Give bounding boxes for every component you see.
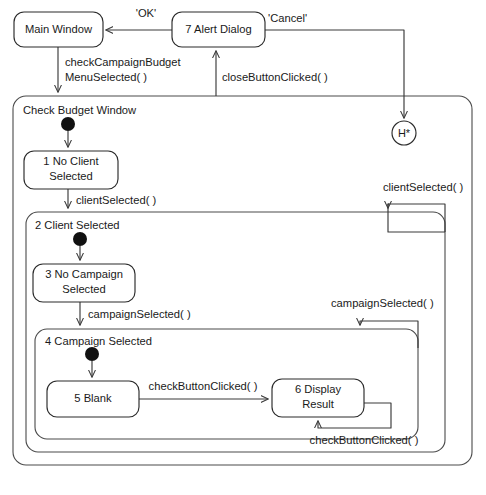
diagram-canvas: Check Budget Window 2 Client Selected 4 … bbox=[0, 0, 486, 495]
transition-check-button-clicked-self-label: checkButtonClicked( ) bbox=[310, 434, 419, 446]
no-client-selected-label-line1: 1 No Client bbox=[43, 155, 99, 167]
transition-check-campaign-budget-label-line1: checkCampaignBudget bbox=[65, 56, 182, 68]
state-blank[interactable]: 5 Blank bbox=[47, 381, 139, 417]
blank-label: 5 Blank bbox=[74, 392, 112, 404]
transition-client-selected-loop-label: clientSelected( ) bbox=[383, 181, 463, 193]
no-campaign-selected-label-line2: Selected bbox=[62, 283, 106, 295]
campaign-selected-label: 4 Campaign Selected bbox=[45, 335, 152, 347]
state-no-client-selected[interactable]: 1 No Client Selected bbox=[24, 151, 118, 189]
transition-cancel-label: 'Cancel' bbox=[268, 12, 307, 24]
history-label: H* bbox=[398, 127, 411, 139]
no-client-selected-label-line2: Selected bbox=[49, 170, 93, 182]
state-display-result[interactable]: 6 Display Result bbox=[272, 379, 364, 417]
transition-client-selected-loop-seg1 bbox=[388, 204, 445, 232]
transition-close-button-clicked-label: closeButtonClicked( ) bbox=[222, 71, 328, 83]
no-campaign-selected-label-line1: 3 No Campaign bbox=[45, 268, 123, 280]
initial-state-check-budget-window bbox=[61, 117, 75, 147]
transition-client-selected-label: clientSelected( ) bbox=[76, 194, 156, 206]
transition-ok-label: 'OK' bbox=[136, 7, 156, 19]
initial-state-client-selected bbox=[73, 232, 87, 260]
transition-client-selected-loop-arrow bbox=[388, 204, 445, 232]
transition-campaign-selected-loop-label: campaignSelected( ) bbox=[331, 297, 434, 309]
main-window-label: Main Window bbox=[25, 23, 93, 35]
deep-history-pseudostate[interactable]: H* bbox=[392, 121, 416, 145]
state-diagram: Check Budget Window 2 Client Selected 4 … bbox=[0, 0, 486, 495]
transition-campaign-selected-loop-arrow bbox=[360, 321, 418, 348]
display-result-label-line2: Result bbox=[302, 398, 335, 410]
display-result-label-line1: 6 Display bbox=[295, 383, 341, 395]
check-budget-window-label: Check Budget Window bbox=[23, 104, 137, 116]
alert-dialog-label: 7 Alert Dialog bbox=[185, 23, 252, 35]
state-no-campaign-selected[interactable]: 3 No Campaign Selected bbox=[33, 264, 135, 302]
initial-state-campaign-selected bbox=[85, 347, 99, 377]
transition-check-campaign-budget-label-line2: MenuSelected( ) bbox=[65, 71, 147, 83]
state-alert-dialog[interactable]: 7 Alert Dialog bbox=[172, 12, 265, 47]
state-main-window[interactable]: Main Window bbox=[14, 12, 103, 47]
client-selected-label: 2 Client Selected bbox=[35, 219, 120, 231]
transition-check-button-clicked-label: checkButtonClicked( ) bbox=[149, 380, 258, 392]
transition-campaign-selected-label: campaignSelected( ) bbox=[88, 308, 191, 320]
